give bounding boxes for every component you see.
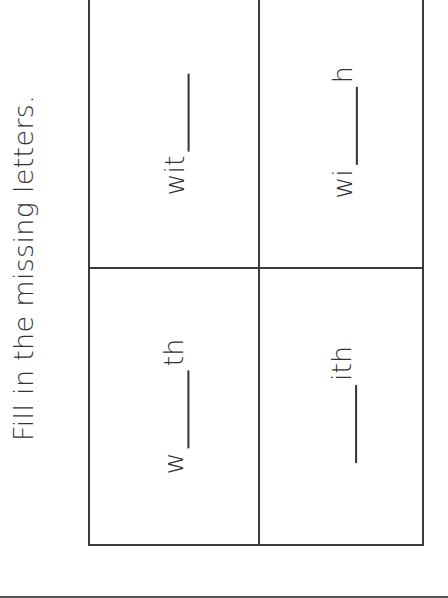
word-cell-bottom-left: w th [90, 269, 258, 544]
word-suffix: h [327, 66, 358, 83]
blank-line[interactable] [165, 370, 189, 448]
word-suffix: ith [326, 346, 357, 381]
word-prefix: wi [327, 169, 358, 199]
word-grid: wit wi h w th ith [88, 0, 424, 546]
blank-line[interactable] [333, 385, 357, 463]
word-puzzle: wi h [327, 66, 358, 199]
word-suffix: th [158, 339, 189, 367]
blank-line[interactable] [334, 87, 358, 165]
word-prefix: w [158, 452, 189, 474]
instruction-heading: Fill in the missing letters. [8, 95, 39, 441]
word-puzzle: wit [158, 69, 189, 195]
word-puzzle: ith [326, 346, 357, 467]
blank-line[interactable] [165, 73, 189, 151]
word-cell-top-right: wi h [260, 0, 424, 267]
word-puzzle: w th [158, 339, 189, 475]
word-cell-top-left: wit [90, 0, 258, 267]
word-prefix: wit [158, 155, 189, 195]
word-cell-bottom-right: ith [260, 269, 424, 544]
